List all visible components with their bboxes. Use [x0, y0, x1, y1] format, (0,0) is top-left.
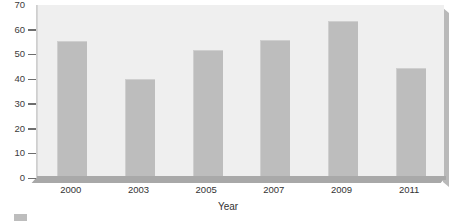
plot-area [37, 5, 444, 178]
y-axis-tick-label: 20 [14, 123, 25, 135]
y-axis-tick: 50 [0, 48, 37, 60]
y-axis-tick-mark [28, 153, 36, 155]
x-axis-tick-label: 2000 [41, 184, 101, 195]
y-axis-tick-mark [28, 79, 36, 81]
y-axis-tick: 20 [0, 123, 37, 135]
y-axis-tick-mark [28, 103, 36, 105]
bar [125, 79, 155, 178]
y-axis-tick: 0 [0, 172, 37, 184]
bar [328, 21, 358, 178]
y-axis-tick: 70 [0, 0, 37, 11]
y-axis-tick-label: 40 [14, 73, 25, 85]
y-axis-tick: 10 [0, 147, 37, 159]
bar [396, 68, 426, 178]
y-axis-tick-mark [28, 128, 36, 130]
x-axis-title: Year [0, 201, 456, 212]
y-axis-tick: 30 [0, 98, 37, 110]
legend-swatch-icon [14, 214, 27, 221]
bar-chart: 010203040506070 200020032005200720092011… [0, 0, 456, 221]
y-axis-tick-label: 50 [14, 48, 25, 60]
x-axis-tick-label: 2009 [312, 184, 372, 195]
y-axis-tick-mark [28, 29, 36, 31]
bar [193, 50, 223, 178]
y-axis-tick-label: 60 [14, 24, 25, 36]
x-axis-tick-label: 2007 [244, 184, 304, 195]
y-axis-tick-label: 30 [14, 98, 25, 110]
x-axis-tick-label: 2005 [176, 184, 236, 195]
x-axis-tick-label: 2011 [379, 184, 439, 195]
bar [57, 41, 87, 178]
x-axis-tick-label: 2003 [109, 184, 169, 195]
legend [14, 214, 33, 221]
bar [260, 40, 290, 178]
x-axis-line [37, 176, 446, 180]
y-axis-tick: 40 [0, 73, 37, 85]
y-axis-tick-label: 10 [14, 147, 25, 159]
y-axis-tick: 60 [0, 24, 37, 36]
y-axis-tick-label: 70 [14, 0, 25, 11]
y-axis-tick-mark [28, 178, 36, 180]
y-axis-tick-label: 0 [20, 172, 25, 184]
y-axis-tick-mark [28, 54, 36, 56]
